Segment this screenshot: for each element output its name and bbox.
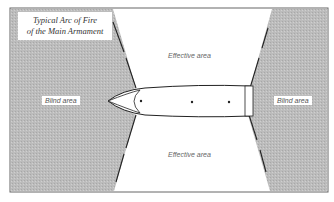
ship-hull xyxy=(108,85,253,116)
blind-area-right-label: Blind area xyxy=(274,96,312,105)
turret-marker xyxy=(140,100,142,102)
turret-marker xyxy=(191,101,193,103)
title-line-2: of the Main Armament xyxy=(20,26,110,37)
blind-area-left-label: Blind area xyxy=(42,96,80,105)
turret-marker xyxy=(228,101,230,103)
stern-block xyxy=(245,86,253,116)
title-line-1: Typical Arc of Fire xyxy=(20,15,110,26)
effective-area-bottom-label: Effective area xyxy=(168,151,211,158)
effective-area-top-label: Effective area xyxy=(168,52,211,59)
diagram-title: Typical Arc of Fire of the Main Armament xyxy=(18,12,112,40)
